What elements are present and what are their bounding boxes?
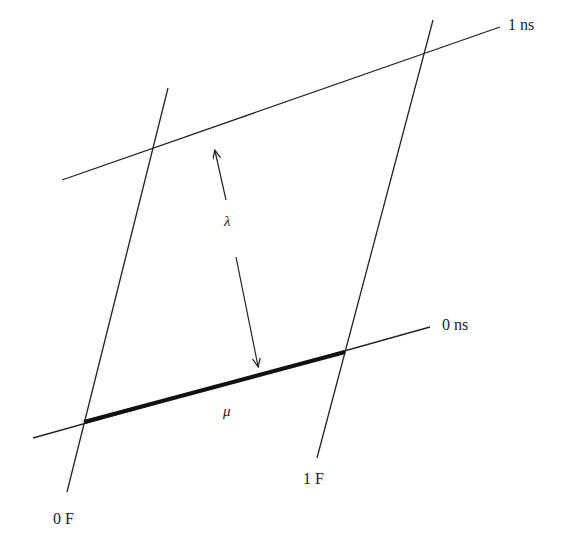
label-0ns: 0 ns <box>442 316 468 334</box>
lambda-arrow-up <box>215 151 226 200</box>
time-line-1ns <box>62 27 500 180</box>
space-line-0F <box>67 88 168 492</box>
label-1F: 1 F <box>303 470 324 488</box>
label-lambda: λ <box>224 213 231 230</box>
label-1ns: 1 ns <box>508 16 534 34</box>
mu-segment <box>84 352 345 422</box>
diagram-canvas <box>0 0 568 547</box>
label-mu: μ <box>223 403 231 420</box>
space-line-1F <box>317 20 433 458</box>
label-0F: 0 F <box>53 510 74 528</box>
lambda-arrow-down <box>236 257 258 366</box>
